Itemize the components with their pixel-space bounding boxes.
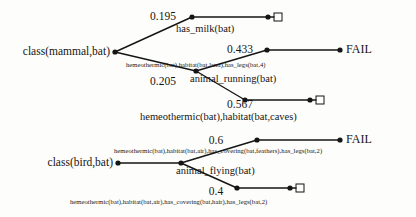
node-label-has-milk: has_milk(bat) [176,24,234,35]
terminal-fail-running: FAIL [346,43,372,55]
node-label-animal-flying: animal_flying(bat) [176,166,255,177]
tree-node-dot [189,14,194,19]
probability-label-0205: 0.205 [150,76,176,88]
terminal-square [274,13,282,21]
proof-tree-diagram: class(mammal,bat) class(bird,bat) 0.195 … [0,0,416,217]
clause-label-air-feathers: hemeothermic(bat),habitat(bat,air),has_c… [114,148,322,155]
probability-label-0433: 0.433 [227,44,253,56]
root-label-bird: class(bird,bat) [48,157,113,169]
node-label-hemeothermic-caves: hemeothermic(bat),habitat(bat,caves) [140,112,297,123]
clause-label-air-hair: hemeothermic(bat),habitat(bat,air),has_c… [70,199,267,206]
tree-node-dot [254,137,259,142]
tree-node-dot [307,97,312,102]
probability-label-0567: 0.567 [227,99,253,111]
tree-node-dot [234,185,239,190]
clause-label-land-legs4: hemeothermic(bat),habitat(bat,land),has_… [126,62,266,69]
terminal-square-group [274,13,324,192]
terminal-square [316,96,324,104]
terminal-fail-flying: FAIL [346,133,372,145]
tree-node-dot [115,160,120,165]
tree-node-dot [264,47,269,52]
root-label-mammal: class(mammal,bat) [23,46,110,58]
tree-node-dot [337,47,342,52]
node-label-animal-running: animal_running(bat) [190,74,276,85]
probability-label-0195: 0.195 [150,11,176,23]
tree-node-dot [287,185,292,190]
tree-node-dot [337,137,342,142]
probability-label-04: 0.4 [209,186,223,198]
tree-node-dot [112,49,117,54]
terminal-square [296,184,304,192]
tree-node-dot [265,14,270,19]
probability-label-06: 0.6 [209,135,223,147]
